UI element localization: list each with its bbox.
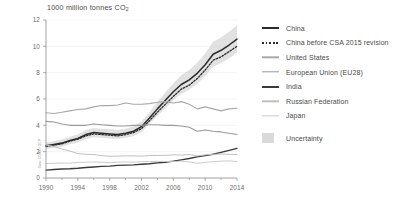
legend-label: Japan bbox=[286, 112, 306, 119]
data-source-credit: Data: CDIAC / GCP bbox=[38, 139, 42, 168]
svg-text:Data: CDIAC / GCP: Data: CDIAC / GCP bbox=[38, 139, 42, 168]
legend-item-european-union-eu28[interactable]: European Union (EU28) bbox=[262, 65, 393, 80]
svg-text:1998: 1998 bbox=[102, 184, 117, 191]
legend-line-swatch-icon bbox=[262, 67, 279, 77]
legend-label: Uncertainty bbox=[286, 135, 323, 142]
svg-text:4: 4 bbox=[36, 122, 40, 129]
legend-label: United States bbox=[286, 54, 329, 61]
svg-text:12: 12 bbox=[33, 16, 41, 23]
x-axis-tick-labels: 1990199419982002200620102014 bbox=[39, 184, 245, 191]
svg-text:10: 10 bbox=[33, 43, 41, 50]
axes bbox=[43, 20, 237, 181]
svg-text:1994: 1994 bbox=[71, 184, 86, 191]
legend-line-swatch-icon bbox=[262, 82, 279, 92]
legend-uncertainty-swatch-icon bbox=[262, 133, 279, 143]
legend-label: China before CSA 2015 revision bbox=[286, 39, 389, 46]
legend-line-swatch-icon bbox=[262, 96, 279, 106]
svg-text:6: 6 bbox=[36, 95, 40, 102]
legend-line-swatch-icon bbox=[262, 111, 279, 121]
legend-label: Russian Federation bbox=[286, 98, 349, 105]
svg-text:1990: 1990 bbox=[39, 184, 54, 191]
legend-line-swatch-icon bbox=[262, 52, 279, 62]
legend-item-uncertainty[interactable]: Uncertainty bbox=[262, 131, 393, 146]
svg-text:2002: 2002 bbox=[134, 184, 149, 191]
svg-text:2010: 2010 bbox=[198, 184, 213, 191]
svg-text:2006: 2006 bbox=[166, 184, 181, 191]
svg-text:8: 8 bbox=[36, 69, 40, 76]
legend-item-russian-federation[interactable]: Russian Federation bbox=[262, 94, 393, 109]
legend-label: European Union (EU28) bbox=[286, 69, 363, 76]
legend-item-india[interactable]: India bbox=[262, 79, 393, 94]
svg-text:2014: 2014 bbox=[230, 184, 245, 191]
svg-text:0: 0 bbox=[36, 174, 40, 181]
co2-emissions-chart-figure: 1000 million tonnes CO2 024681012 199019… bbox=[0, 0, 393, 213]
legend-item-china[interactable]: China bbox=[262, 21, 393, 36]
legend-label: China bbox=[286, 25, 305, 32]
legend-line-swatch-icon bbox=[262, 23, 279, 33]
chart-legend: ChinaChina before CSA 2015 revisionUnite… bbox=[262, 21, 393, 146]
legend-item-japan[interactable]: Japan bbox=[262, 109, 393, 124]
legend-spacer bbox=[262, 123, 393, 131]
legend-item-china-before-csa-2015-revision[interactable]: China before CSA 2015 revision bbox=[262, 36, 393, 51]
legend-label: India bbox=[286, 83, 302, 90]
legend-line-swatch-icon bbox=[262, 38, 279, 48]
legend-item-united-states[interactable]: United States bbox=[262, 50, 393, 65]
